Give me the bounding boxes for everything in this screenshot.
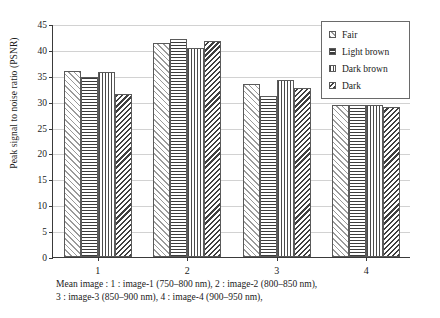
bar-dark-2 [204,41,221,257]
y-tick-label: 5 [42,227,47,237]
legend-swatch-icon [329,82,336,89]
legend-swatch-icon [329,31,336,38]
y-tick-label: 30 [38,98,48,108]
legend-label: Light brown [342,47,389,57]
x-tick-mark [98,257,99,261]
y-tick-label: 10 [38,201,48,211]
y-tick-label: 15 [38,175,48,185]
legend-label: Dark [342,81,361,91]
caption-line-1: Mean image : 1 : image-1 (750–800 nm), 2… [56,278,416,291]
x-tick-mark [187,257,188,261]
bar-dark-brown-3 [277,80,294,257]
y-tick-mark [49,103,53,104]
y-tick-mark [49,232,53,233]
y-tick-mark [49,258,53,259]
chart-legend: FairLight brownDark brownDark [321,21,410,99]
y-tick-mark [49,51,53,52]
bar-group [64,25,132,257]
chart-figure: Peak signal to noise ratio (PSNR) 051015… [0,0,440,318]
x-tick-mark [277,257,278,261]
legend-label: Fair [342,30,357,40]
caption-line-2: 3 : image-3 (850–900 nm), 4 : image-4 (9… [56,291,416,304]
y-tick-mark [49,77,53,78]
bar-dark-4 [383,107,400,257]
x-tick-label: 1 [95,265,100,276]
bar-group [153,25,221,257]
legend-swatch-icon [329,48,336,55]
chart-caption: Mean image : 1 : image-1 (750–800 nm), 2… [56,278,416,303]
bar-dark-1 [115,94,132,257]
legend-swatch-icon [329,65,336,72]
bar-fair-2 [153,43,170,257]
bar-dark-brown-4 [366,105,383,257]
y-tick-label: 0 [42,253,47,263]
legend-label: Dark brown [342,64,388,74]
x-tick-label: 3 [274,265,279,276]
y-tick-label: 25 [38,124,48,134]
legend-item-fair[interactable]: Fair [322,26,409,43]
y-tick-mark [49,206,53,207]
y-axis-title: Peak signal to noise ratio (PSNR) [9,0,19,213]
y-tick-mark [49,180,53,181]
bar-fair-1 [64,71,81,257]
bar-light-brown-4 [349,105,366,257]
bar-fair-3 [243,84,260,257]
bar-group [243,25,311,257]
bar-dark-brown-1 [98,72,115,257]
y-tick-label: 35 [38,72,48,82]
bar-light-brown-3 [260,96,277,257]
legend-item-dark[interactable]: Dark [322,77,409,94]
x-tick-label: 2 [185,265,190,276]
x-tick-mark [366,257,367,261]
y-tick-mark [49,154,53,155]
legend-item-dark-brown[interactable]: Dark brown [322,60,409,77]
y-tick-label: 20 [38,149,48,159]
y-tick-mark [49,25,53,26]
y-tick-mark [49,129,53,130]
x-tick-label: 4 [364,265,369,276]
bar-dark-brown-2 [187,48,204,257]
y-tick-label: 45 [38,20,48,30]
bar-light-brown-1 [81,77,98,257]
y-tick-label: 40 [38,46,48,56]
bar-fair-4 [332,105,349,257]
legend-item-light-brown[interactable]: Light brown [322,43,409,60]
bar-dark-3 [294,88,311,257]
bar-light-brown-2 [170,39,187,258]
